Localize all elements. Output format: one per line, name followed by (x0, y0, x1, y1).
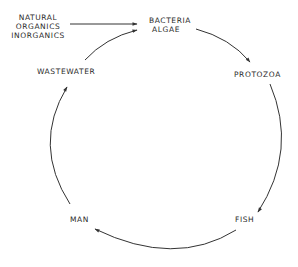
arrow-protozoa-to-fish (258, 84, 282, 212)
node-protozoa: PROTOZOA (234, 70, 281, 79)
node-wastewater: WASTEWATER (37, 67, 95, 76)
input-inorganics: INORGANICS (8, 31, 68, 40)
arrow-bacteria-to-protozoa (196, 29, 250, 62)
food-cycle-diagram: NATURAL ORGANICS INORGANICS BACTERIA ALG… (0, 0, 298, 267)
arrow-man-to-wastewater (50, 87, 70, 204)
node-man: MAN (70, 215, 89, 224)
arrow-wastewater-to-bacteria (85, 30, 137, 60)
node-bacteria-label: BACTERIA (149, 16, 191, 25)
node-bacteria-algae: BACTERIA ALGAE (149, 16, 191, 34)
node-fish: FISH (235, 215, 254, 224)
inputs-label: NATURAL ORGANICS INORGANICS (8, 13, 68, 40)
node-algae-label: ALGAE (149, 25, 191, 34)
arrow-fish-to-man (95, 229, 236, 249)
cycle-arrows (0, 0, 298, 267)
input-organics: ORGANICS (8, 22, 68, 31)
input-natural: NATURAL (8, 13, 68, 22)
